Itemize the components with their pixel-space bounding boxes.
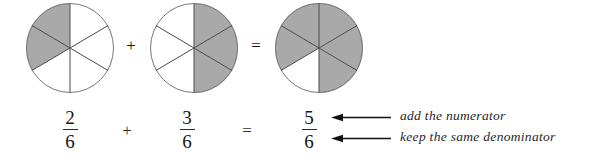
numerator-annotation-text: add the numerator xyxy=(400,106,506,125)
second-addend-pie xyxy=(150,3,238,93)
second-fraction-denominator: 6 xyxy=(170,132,204,151)
first-fraction-numerator: 2 xyxy=(53,108,87,128)
equals-sign-equation: = xyxy=(235,122,259,140)
denominator-annotation-text: keep the same denominator xyxy=(400,127,556,146)
result-denominator: 6 xyxy=(292,132,326,151)
second-fraction: 3 6 xyxy=(170,108,204,151)
first-fraction-bar xyxy=(63,129,78,130)
result-fraction-bar xyxy=(302,129,317,130)
plus-sign-diagram: + xyxy=(120,36,142,56)
result-fraction: 5 6 xyxy=(292,108,326,151)
equals-sign-diagram: = xyxy=(245,36,267,56)
equation-row: 2 6 + 3 6 = 5 6 add the numerator xyxy=(0,100,608,157)
second-fraction-bar xyxy=(180,129,195,130)
first-fraction: 2 6 xyxy=(53,108,87,151)
second-fraction-numerator: 3 xyxy=(170,108,204,128)
result-numerator: 5 xyxy=(292,108,326,128)
left-arrow-icon xyxy=(330,113,392,122)
sum-pie xyxy=(275,3,363,93)
first-addend-pie xyxy=(26,3,114,93)
plus-sign-equation: + xyxy=(115,122,139,140)
pie-diagram-row: + = xyxy=(0,0,608,98)
fraction-addition-figure: + = xyxy=(0,0,608,157)
first-fraction-denominator: 6 xyxy=(53,132,87,151)
left-arrow-icon xyxy=(330,134,392,143)
